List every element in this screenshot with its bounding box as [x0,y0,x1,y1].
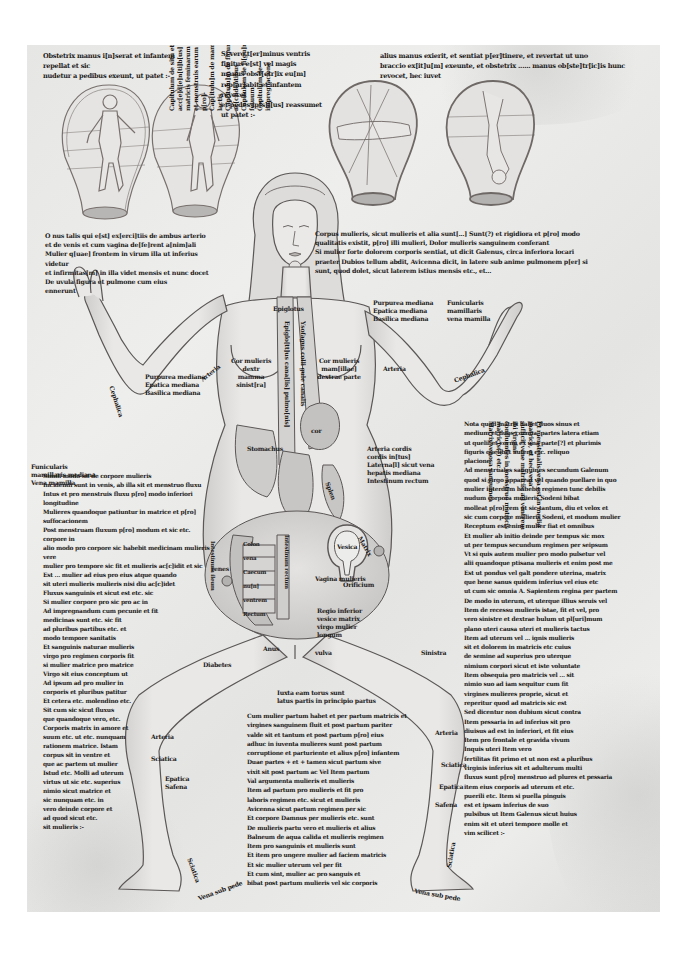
fetal-figure-3 [330,81,417,205]
chapter-line: acc[e]d[e]n[ti]b[us] matricis feminarum [176,46,191,111]
label-upper-arm-right: Arteria [383,365,406,373]
text-column-left: Simili modo sit de corpore mulieris Inci… [43,471,213,831]
note-upper-right: Corpus mulieris, sicut mulieris et alia … [315,229,645,275]
label-trachea-left: Epiglo[tt]us cana[lis] pulmo[nis] [283,321,291,451]
manuscript-page: Obstetrix manus i[n]serat et infantem re… [27,45,660,912]
label-anus: Anus [263,645,279,653]
label-orificium: Orificium [343,581,374,589]
label-median-veins-left: Purpurea mediana Epatica mediana Basilic… [145,373,205,397]
chapter-line: Capitulum de impregnacione [256,62,271,111]
label-liver: Stomachus [247,445,283,453]
label-right-hip: Sinistra [421,649,446,657]
text-column-center-lower: Cum mulier partum habet et per partum ma… [247,711,417,888]
fetal-figure-4 [447,81,535,205]
label-right-knee: Sciatica [441,761,467,769]
label-intestine-rectum: Intestinum rectum [283,535,291,589]
label-right-shin-1: Epatica [439,783,463,791]
chapter-list-vertical: Capitulum de situ et re acc[e]d[e]n[ti]b… [160,45,230,111]
label-vulva: vulva [315,649,332,657]
label-intestines-left: Colon vena Caecum nu[n] ventrem Rectum [243,537,277,621]
label-right-thigh: Arteria [435,729,458,737]
label-intestines-right: Arteria cordis cordis in[tus] Laterna[l]… [367,445,434,485]
label-renes: renes [211,565,229,573]
chapter-line: Capitulum de situ et re [168,45,175,111]
caption-below-belly: Iuxta eam torus sunt latus partis in pri… [277,689,376,705]
label-neck: Epiglotus [273,305,304,313]
label-median-veins-right: Purpurea mediana Epatica mediana Basilic… [373,299,433,323]
label-vesica: Vesica [337,543,357,551]
label-chest-left: Cor mulieris dextr mamma sinist[ra] [229,357,273,389]
caption-fetal-3-4: alius manus exierit, et sentiat p[er]tin… [380,51,640,82]
note-upper-left: O nus talis qui e[st] ex[erci]tiis de am… [45,231,215,295]
label-heart: cor [311,427,321,435]
label-lower-belly: Regio inferior vesice matrix virgo mulie… [317,607,362,639]
fetal-figure-1 [62,85,149,219]
text-column-right: Nota quod matrix habet duos sinus et med… [464,419,644,837]
chapter-line: et menstruis earum in p[ro]- [192,45,207,111]
label-chest-right: Cor mulieris mam[illae] dextrae parte [311,357,367,381]
label-right-shin-2: Safena [435,801,457,809]
label-below-elbow-right: Funicularis mamillaris vena mamilla [447,299,490,323]
label-trachea-right: Ysofagus colli gule canalis [299,321,307,451]
chapter-line: Cap[itulu]m de mamillis et lactis [208,45,223,111]
